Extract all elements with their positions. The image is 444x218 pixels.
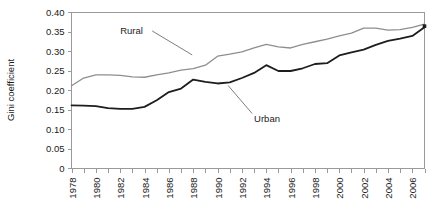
y-tick-label: 0.35 (46, 26, 65, 37)
x-tick-label: 1984 (140, 178, 151, 199)
leader-line-urban (228, 85, 252, 113)
chart-container: 00.050.100.150.200.250.300.350.40 197819… (0, 0, 444, 218)
y-tick-label: 0.30 (46, 46, 65, 57)
x-tick-label: 1996 (286, 178, 297, 199)
y-tick-label: 0.15 (46, 104, 65, 115)
x-tick-label: 1990 (213, 178, 224, 199)
y-tick-label: 0.40 (46, 7, 65, 18)
urban-end-point-marker (423, 24, 427, 28)
x-tick-label: 2004 (383, 178, 394, 199)
y-tick-label: 0.20 (46, 85, 65, 96)
x-tick-label: 1978 (67, 178, 78, 199)
x-tick-label: 1994 (261, 178, 272, 199)
x-axis: 1978198019821984198619881990199219941996… (67, 169, 425, 199)
x-tick-label: 2000 (334, 178, 345, 199)
leader-line-rural (152, 31, 192, 55)
y-tick-label: 0 (59, 163, 64, 174)
series-annotations: RuralUrban (120, 25, 280, 125)
series-label-rural: Rural (120, 25, 143, 36)
y-axis: 00.050.100.150.200.250.300.350.40 (46, 7, 72, 174)
x-tick-label: 1998 (310, 178, 321, 199)
gini-coefficient-line-chart: 00.050.100.150.200.250.300.350.40 197819… (0, 0, 444, 218)
x-tick-label: 2002 (359, 178, 370, 199)
x-tick-label: 1982 (115, 178, 126, 199)
y-tick-label: 0.25 (46, 65, 65, 76)
x-tick-label: 2006 (407, 178, 418, 199)
y-axis-title: Gini coefficient (5, 59, 16, 121)
x-tick-label: 1992 (237, 178, 248, 199)
data-series-group (72, 24, 427, 109)
y-tick-label: 0.10 (46, 124, 65, 135)
x-tick-label: 1986 (164, 178, 175, 199)
series-line-urban (72, 27, 425, 109)
x-tick-label: 1988 (188, 178, 199, 199)
series-label-urban: Urban (254, 113, 280, 124)
y-tick-label: 0.05 (46, 143, 65, 154)
x-tick-label: 1980 (91, 178, 102, 199)
